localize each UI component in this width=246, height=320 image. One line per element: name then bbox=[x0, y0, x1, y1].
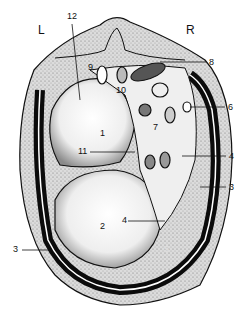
label-12: 12 bbox=[67, 12, 77, 21]
label-10: 10 bbox=[116, 86, 126, 95]
label-4-right: 4 bbox=[229, 152, 234, 161]
label-4-lower: 4 bbox=[122, 216, 127, 225]
label-1: 1 bbox=[100, 129, 105, 138]
label-6: 6 bbox=[228, 103, 233, 112]
loop-9 bbox=[97, 66, 107, 84]
label-3-left: 3 bbox=[13, 245, 18, 254]
vessel-6 bbox=[183, 102, 191, 112]
label-7: 7 bbox=[153, 123, 158, 132]
label-11: 11 bbox=[78, 147, 87, 156]
label-3-right: 3 bbox=[229, 183, 234, 192]
label-5: 5 bbox=[164, 245, 169, 254]
left-side-label: L bbox=[38, 24, 45, 36]
section-drawing bbox=[0, 0, 246, 320]
anatomical-cross-section: L R 1 2 3 3 4 4 5 6 7 8 9 10 11 12 bbox=[0, 0, 246, 320]
label-2: 2 bbox=[100, 222, 105, 231]
label-8: 8 bbox=[209, 58, 214, 67]
label-9: 9 bbox=[88, 63, 93, 72]
right-side-label: R bbox=[186, 24, 195, 36]
